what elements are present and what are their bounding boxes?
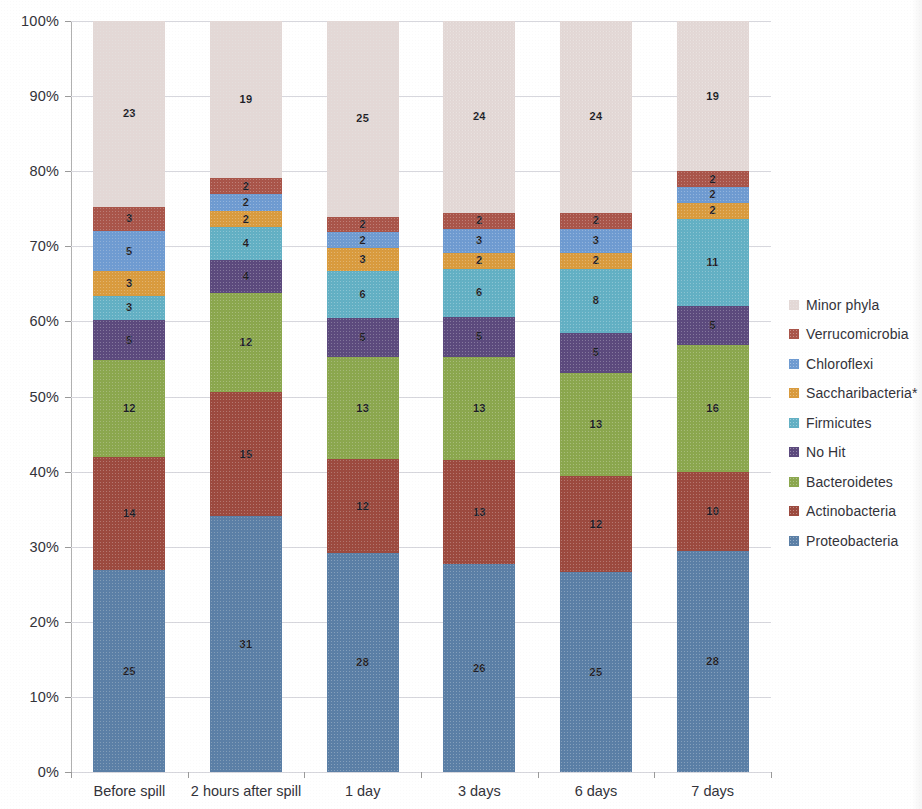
legend-item[interactable]: Saccharibacteria* [789, 379, 922, 409]
bar-segment[interactable]: 25 [93, 570, 165, 772]
bar-segment[interactable]: 4 [210, 227, 282, 260]
bar-column[interactable]: 28101651122219 [677, 21, 749, 772]
bar-segment[interactable]: 2 [677, 187, 749, 203]
bar-segment[interactable]: 3 [560, 229, 632, 253]
bar-segment[interactable]: 2 [443, 253, 515, 269]
bar-segment[interactable]: 3 [93, 207, 165, 231]
bar-segment[interactable]: 5 [93, 231, 165, 271]
bar-column[interactable]: 2613135623224 [443, 21, 515, 772]
bar-segment-value-label: 19 [706, 91, 719, 102]
y-axis-tick-label: 30% [29, 539, 59, 555]
y-axis-tick-label: 40% [29, 464, 59, 480]
bar-segment[interactable]: 2 [210, 178, 282, 195]
bar-segment[interactable]: 5 [677, 306, 749, 346]
bar-segment[interactable]: 2 [560, 213, 632, 229]
legend-item[interactable]: Proteobacteria [789, 526, 922, 556]
bar-segment[interactable]: 25 [560, 572, 632, 772]
bar-segment[interactable]: 2 [443, 213, 515, 229]
y-axis-tick-label: 100% [21, 13, 59, 29]
bar-segment[interactable]: 12 [210, 293, 282, 392]
bar-segment[interactable]: 5 [560, 333, 632, 373]
bar-segment[interactable]: 2 [210, 211, 282, 228]
bar-segment-value-label: 24 [473, 111, 486, 122]
bar-segment[interactable]: 23 [93, 21, 165, 207]
legend-item-label: Verrucomicrobia [806, 326, 909, 342]
bar-segment[interactable]: 3 [93, 271, 165, 295]
bar-segment[interactable]: 28 [327, 553, 399, 772]
bar-segment[interactable]: 2 [677, 171, 749, 187]
legend-item-label: Minor phyla [806, 297, 879, 313]
bar-segment[interactable]: 10 [677, 472, 749, 551]
bar-segment[interactable]: 19 [210, 21, 282, 178]
legend-item[interactable]: Verrucomicrobia [789, 320, 922, 350]
bar-segment[interactable]: 31 [210, 516, 282, 772]
bar-segment-value-label: 14 [123, 508, 136, 519]
bar-segment-value-label: 12 [590, 519, 603, 530]
legend-item-label: No Hit [806, 444, 846, 460]
bar-segment[interactable]: 26 [443, 564, 515, 772]
bar-segment[interactable]: 3 [93, 296, 165, 320]
bar-segment[interactable]: 11 [677, 219, 749, 306]
bar-segment[interactable]: 5 [443, 317, 515, 357]
bar-segment[interactable]: 14 [93, 457, 165, 570]
x-axis-category-label: Before spill [93, 783, 165, 799]
bar-segment[interactable]: 19 [677, 21, 749, 171]
bar-segment[interactable]: 24 [560, 21, 632, 213]
bar-segment-value-label: 13 [356, 403, 369, 414]
bar-segment[interactable]: 6 [443, 269, 515, 317]
bar-segment[interactable]: 3 [443, 229, 515, 253]
bar-segment[interactable]: 28 [677, 551, 749, 772]
bar-segment-value-label: 8 [593, 295, 599, 306]
bar-segment[interactable]: 13 [560, 373, 632, 477]
bar-segment[interactable]: 16 [677, 345, 749, 471]
bar-segment-value-label: 4 [243, 271, 249, 282]
legend-item[interactable]: No Hit [789, 438, 922, 468]
bar-segment[interactable]: 3 [327, 248, 399, 271]
bar-column[interactable]: 2812135632225 [327, 21, 399, 772]
gridline [71, 472, 771, 473]
bar-segment[interactable]: 5 [93, 320, 165, 360]
bar-segment[interactable]: 5 [327, 318, 399, 357]
legend-item[interactable]: Actinobacteria [789, 497, 922, 527]
bar-segment-value-label: 5 [709, 320, 715, 331]
gridline [71, 321, 771, 322]
legend-item[interactable]: Firmicutes [789, 408, 922, 438]
bar-segment-value-label: 19 [240, 94, 253, 105]
bar-segment[interactable]: 12 [327, 459, 399, 553]
x-axis-tick [188, 772, 189, 778]
bar-column[interactable]: 2514125335323 [93, 21, 165, 772]
legend-color-swatch [789, 329, 799, 339]
bar-segment[interactable]: 13 [327, 357, 399, 459]
y-axis-tick-label: 60% [29, 313, 59, 329]
bar-segment[interactable]: 13 [443, 357, 515, 461]
bar-segment[interactable]: 2 [210, 194, 282, 211]
bar-segment[interactable]: 4 [210, 260, 282, 293]
legend-item[interactable]: Bacteroidetes [789, 467, 922, 497]
bar-segment-value-label: 2 [709, 205, 715, 216]
bar-segment-value-label: 5 [359, 332, 365, 343]
bar-segment-value-label: 2 [476, 215, 482, 226]
y-axis-tick [65, 397, 71, 398]
x-axis-category-label: 7 days [691, 783, 734, 799]
bar-segment[interactable]: 2 [560, 253, 632, 269]
bar-segment[interactable]: 6 [327, 271, 399, 318]
bar-segment[interactable]: 13 [443, 460, 515, 564]
x-axis-category-label: 6 days [575, 783, 618, 799]
bar-segment[interactable]: 15 [210, 392, 282, 516]
bar-segment[interactable]: 8 [560, 269, 632, 333]
legend-item[interactable]: Chloroflexi [789, 349, 922, 379]
bar-segment[interactable]: 2 [677, 203, 749, 219]
bar-segment[interactable]: 2 [327, 232, 399, 248]
bar-segment-value-label: 6 [476, 287, 482, 298]
bar-column[interactable]: 2512135823224 [560, 21, 632, 772]
bar-segment[interactable]: 12 [560, 476, 632, 572]
bar-segment[interactable]: 12 [93, 360, 165, 457]
y-axis-tick-label: 90% [29, 88, 59, 104]
x-axis-tick [304, 772, 305, 778]
bar-segment[interactable]: 2 [327, 217, 399, 233]
bar-column[interactable]: 3115124422219 [210, 21, 282, 772]
bar-segment[interactable]: 24 [443, 21, 515, 213]
legend-item[interactable]: Minor phyla [789, 290, 922, 320]
legend-item-label: Firmicutes [806, 415, 872, 431]
bar-segment[interactable]: 25 [327, 21, 399, 217]
